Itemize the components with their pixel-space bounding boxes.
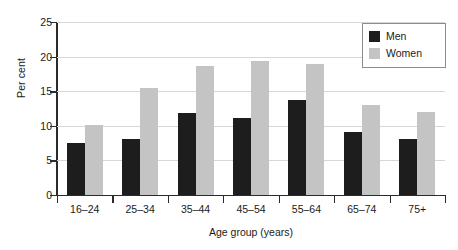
- bar-women: [85, 125, 103, 195]
- x-axis-title: Age group (years): [57, 226, 445, 238]
- y-axis-tick-mark: [50, 160, 57, 161]
- bar-men: [67, 143, 85, 195]
- bar-men: [233, 118, 251, 196]
- x-axis-tick-label: 25–34: [112, 203, 167, 215]
- bar-women: [140, 88, 158, 195]
- x-axis-tick-mark: [334, 196, 335, 203]
- bar-chart: Per cent 0510152025 16–2425–3435–4445–54…: [0, 0, 458, 250]
- bar-pair: [168, 22, 223, 195]
- bar-group: [57, 22, 112, 195]
- chart-legend: Men Women: [362, 23, 446, 68]
- legend-swatch-women-icon: [369, 48, 380, 59]
- x-axis-tick-mark: [279, 196, 280, 203]
- bar-women: [196, 66, 214, 195]
- bar-men: [344, 132, 362, 195]
- x-axis-tick-mark: [168, 196, 169, 203]
- legend-item-women: Women: [369, 46, 439, 61]
- bar-group: [168, 22, 223, 195]
- bar-women: [251, 61, 269, 195]
- y-axis-tick-label: 0: [30, 190, 52, 200]
- y-axis-tick-mark: [50, 57, 57, 58]
- legend-swatch-men-icon: [369, 31, 380, 42]
- legend-label-women: Women: [386, 48, 422, 59]
- bar-men: [178, 113, 196, 195]
- y-axis-tick-label: 20: [30, 52, 52, 62]
- x-axis-tick-labels: 16–2425–3435–4445–5455–6465–7475+: [57, 203, 445, 215]
- y-axis-title: Per cent: [15, 33, 27, 123]
- x-axis-tick-mark: [57, 196, 58, 203]
- bar-group: [279, 22, 334, 195]
- legend-label-men: Men: [386, 31, 406, 42]
- y-axis-tick-label: 10: [30, 121, 52, 131]
- x-axis-tick-label: 75+: [390, 203, 445, 215]
- bar-men: [399, 139, 417, 195]
- bar-women: [306, 64, 324, 195]
- y-axis-tick-label: 15: [30, 86, 52, 96]
- bar-men: [288, 100, 306, 195]
- bar-pair: [223, 22, 278, 195]
- bar-pair: [279, 22, 334, 195]
- y-axis-tick-label: 5: [30, 155, 52, 165]
- legend-item-men: Men: [369, 29, 439, 44]
- x-axis-tick-label: 65–74: [334, 203, 389, 215]
- x-axis-tick-label: 16–24: [57, 203, 112, 215]
- x-axis-tick-mark: [223, 196, 224, 203]
- bar-pair: [57, 22, 112, 195]
- bar-pair: [112, 22, 167, 195]
- y-axis-tick-mark: [50, 126, 57, 127]
- y-axis-tick-mark: [50, 91, 57, 92]
- x-axis-tick-mark: [390, 196, 391, 203]
- bar-group: [112, 22, 167, 195]
- x-axis-tick-mark: [445, 196, 446, 203]
- y-axis-tick-mark: [50, 22, 57, 23]
- y-axis-tick-labels: 0510152025: [28, 0, 52, 250]
- x-axis-line: [57, 195, 446, 196]
- x-axis-tick-label: 35–44: [168, 203, 223, 215]
- y-axis-tick-label: 25: [30, 17, 52, 27]
- y-axis-tick-mark: [50, 195, 57, 196]
- bar-group: [223, 22, 278, 195]
- bar-men: [122, 139, 140, 195]
- x-axis-tick-label: 55–64: [279, 203, 334, 215]
- x-axis-tick-mark: [112, 196, 113, 203]
- x-axis-tick-label: 45–54: [223, 203, 278, 215]
- bar-women: [417, 112, 435, 195]
- bar-women: [362, 105, 380, 195]
